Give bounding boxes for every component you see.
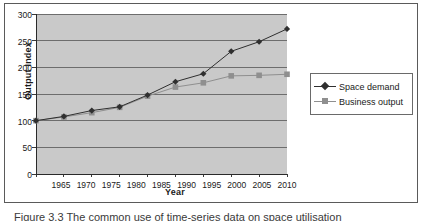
figure-caption-text: Figure 3.3 The common use of time-series… xyxy=(14,212,410,221)
data-point-marker xyxy=(256,73,262,79)
legend-item-business-output[interactable]: Business output xyxy=(314,94,408,109)
data-point-marker xyxy=(284,71,290,77)
legend-label: Space demand xyxy=(339,82,400,92)
y-axis-title: Output Index xyxy=(23,26,33,116)
legend-label: Business output xyxy=(339,97,403,107)
y-tick-label: 100 xyxy=(6,117,32,127)
legend-marker-square-icon xyxy=(314,96,336,107)
y-tick-label: 300 xyxy=(6,10,32,20)
chart-frame: 300 250 200 150 100 50 0 1965 1970 1975 … xyxy=(4,3,418,203)
legend-marker-diamond-icon xyxy=(314,81,336,92)
data-point-marker xyxy=(173,84,179,90)
data-point-marker xyxy=(228,73,234,79)
chart-legend: Space demand Business output xyxy=(310,73,413,115)
data-point-marker xyxy=(201,80,207,86)
x-axis-title: Year xyxy=(60,187,290,197)
legend-item-space-demand[interactable]: Space demand xyxy=(314,79,408,94)
figure: 300 250 200 150 100 50 0 1965 1970 1975 … xyxy=(0,0,424,221)
figure-caption: Figure 3.3 The common use of time-series… xyxy=(14,212,410,221)
y-tick-label: 50 xyxy=(6,143,32,153)
y-tick-label: 0 xyxy=(6,170,32,180)
plot-area: 300 250 200 150 100 50 0 1965 1970 1975 … xyxy=(5,4,419,204)
